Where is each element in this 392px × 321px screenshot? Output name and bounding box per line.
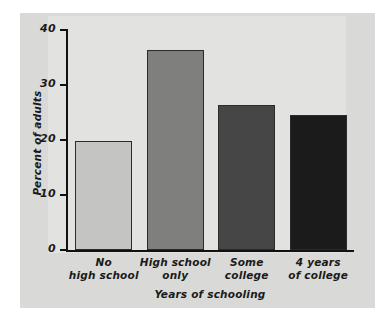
chart-axes: 40 30 20 10 0 Percent of adults No high … [0,0,392,321]
y-tick-40 [60,29,67,31]
bar-chart-figure: 40 30 20 10 0 Percent of adults No high … [0,0,392,321]
y-tick-label-40: 40 [28,22,56,35]
y-tick-label-0: 0 [28,242,56,255]
x-tick-label-4-years-of-college: 4 years of college [277,256,361,282]
x-tick-label-line-2: of college [277,269,361,282]
y-tick-10 [60,194,67,196]
x-axis-line [66,250,354,252]
bar-some-college[interactable] [218,105,275,250]
y-axis-title: Percent of adults [31,68,43,218]
y-tick-20 [60,139,67,141]
x-tick-label-line-1: 4 years [277,256,361,269]
x-axis-title: Years of schooling [66,288,354,300]
bar-high-school-only[interactable] [147,50,204,250]
bar-no-high-school[interactable] [75,141,132,250]
bar-4-years-of-college[interactable] [290,115,347,250]
y-tick-30 [60,84,67,86]
